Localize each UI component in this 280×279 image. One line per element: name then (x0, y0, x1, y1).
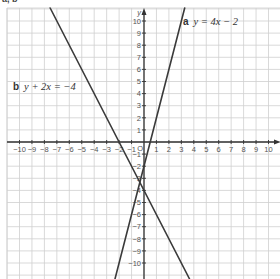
y-tick-label: −8 (132, 235, 141, 244)
y-tick-label: 4 (137, 89, 141, 98)
x-tick-label: −10 (13, 145, 26, 154)
line-a (115, 8, 185, 279)
x-tick-label: −9 (28, 145, 37, 154)
y-tick-label: −9 (132, 247, 141, 256)
x-tick-label: −5 (77, 145, 86, 154)
x-tick-label: 1 (154, 145, 158, 154)
equation-labels: ay = 4x − 2 by + 2x = −4 (13, 16, 239, 92)
x-tick-label: 9 (254, 145, 258, 154)
origin-label: O (137, 144, 143, 153)
x-tick-label: 2 (167, 145, 171, 154)
y-tick-label: 7 (137, 53, 141, 62)
x-tick-label: 3 (179, 145, 183, 154)
x-tick-label: 7 (229, 145, 233, 154)
y-tick-label: 1 (137, 126, 141, 135)
y-tick-label: −10 (128, 259, 141, 268)
y-tick-label: 8 (137, 41, 141, 50)
y-tick-label: −7 (132, 222, 141, 231)
y-tick-label: 2 (137, 114, 141, 123)
y-axis-label: y (136, 8, 142, 17)
x-axis-arrow-icon (274, 140, 280, 145)
x-tick-label: −6 (65, 145, 74, 154)
x-tick-label: 10 (264, 145, 272, 154)
x-tick-label: −7 (53, 145, 62, 154)
coordinate-grid-chart: −10−9−8−7−6−5−4−3−2−112345678910−10−9−8−… (0, 0, 280, 279)
y-tick-label: 3 (137, 101, 141, 110)
y-tick-label: 6 (137, 65, 141, 74)
line-b-label: by + 2x = −4 (13, 81, 76, 92)
line-a-label: ay = 4x − 2 (183, 16, 239, 27)
y-tick-label: −6 (132, 210, 141, 219)
x-tick-label: 8 (242, 145, 246, 154)
x-tick-label: 4 (192, 145, 196, 154)
y-tick-label: 10 (133, 17, 141, 26)
x-tick-label: −4 (90, 145, 99, 154)
x-tick-label: −8 (40, 145, 49, 154)
x-tick-label: 5 (204, 145, 208, 154)
x-tick-label: 6 (217, 145, 221, 154)
y-tick-label: 5 (137, 77, 141, 86)
tick-labels: −10−9−8−7−6−5−4−3−2−112345678910−10−9−8−… (13, 8, 273, 268)
y-tick-label: 9 (137, 29, 141, 38)
x-tick-label: −3 (102, 145, 111, 154)
